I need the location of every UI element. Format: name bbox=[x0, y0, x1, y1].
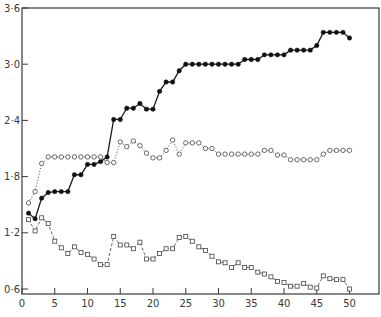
data-point-open-square bbox=[72, 245, 76, 249]
data-point-open-square bbox=[112, 235, 116, 239]
y-tick-label: 0·6 bbox=[4, 284, 20, 295]
series-filled-circle bbox=[26, 30, 351, 221]
data-point-open-circle bbox=[282, 153, 286, 157]
data-point-filled-circle bbox=[328, 30, 332, 34]
data-point-open-square bbox=[99, 263, 103, 267]
data-point-open-square bbox=[33, 229, 37, 233]
line-chart: 0·61·21·82·43·03·6 05101520253035404550 bbox=[0, 0, 381, 317]
data-point-filled-circle bbox=[151, 107, 155, 111]
data-point-open-square bbox=[302, 281, 306, 285]
data-point-filled-circle bbox=[39, 196, 43, 200]
data-point-open-square bbox=[184, 235, 188, 239]
data-point-open-circle bbox=[216, 152, 220, 156]
data-point-open-square bbox=[79, 250, 83, 254]
data-point-filled-circle bbox=[177, 69, 181, 73]
data-point-open-circle bbox=[203, 146, 207, 150]
data-point-open-square bbox=[27, 218, 31, 222]
data-point-open-circle bbox=[347, 148, 351, 152]
data-point-open-square bbox=[243, 265, 247, 269]
series-line bbox=[29, 32, 350, 218]
data-point-open-circle bbox=[236, 152, 240, 156]
y-tick-label: 3·6 bbox=[4, 3, 20, 14]
data-point-open-circle bbox=[164, 148, 168, 152]
data-point-open-circle bbox=[157, 156, 161, 160]
y-tick-label: 2·4 bbox=[4, 115, 20, 126]
data-point-open-square bbox=[40, 216, 44, 220]
data-point-open-square bbox=[348, 287, 352, 291]
data-point-open-circle bbox=[112, 160, 116, 164]
data-point-open-circle bbox=[66, 155, 70, 159]
data-point-filled-circle bbox=[66, 189, 70, 193]
data-point-open-square bbox=[334, 278, 338, 282]
x-tick-label: 35 bbox=[245, 298, 258, 309]
data-point-filled-circle bbox=[112, 117, 116, 121]
data-point-open-square bbox=[151, 257, 155, 261]
x-tick-label: 45 bbox=[310, 298, 323, 309]
x-tick-label: 5 bbox=[52, 298, 58, 309]
data-point-filled-circle bbox=[288, 48, 292, 52]
data-point-open-square bbox=[282, 280, 286, 284]
data-point-open-square bbox=[66, 251, 70, 255]
data-point-open-square bbox=[328, 277, 332, 281]
data-point-filled-circle bbox=[197, 62, 201, 66]
data-point-filled-circle bbox=[321, 30, 325, 34]
data-point-open-circle bbox=[249, 152, 253, 156]
data-point-filled-circle bbox=[295, 48, 299, 52]
data-point-open-square bbox=[321, 274, 325, 278]
data-point-open-square bbox=[217, 260, 221, 264]
data-point-open-circle bbox=[308, 158, 312, 162]
data-point-open-circle bbox=[256, 152, 260, 156]
data-point-open-square bbox=[158, 251, 162, 255]
data-point-filled-circle bbox=[85, 162, 89, 166]
data-point-open-circle bbox=[275, 153, 279, 157]
data-point-open-square bbox=[171, 247, 175, 251]
y-tick-label: 1·2 bbox=[4, 227, 20, 238]
data-point-filled-circle bbox=[79, 173, 83, 177]
data-point-open-circle bbox=[315, 158, 319, 162]
x-tick-label: 15 bbox=[114, 298, 127, 309]
data-point-open-circle bbox=[321, 152, 325, 156]
data-point-filled-circle bbox=[53, 189, 57, 193]
data-point-open-square bbox=[203, 249, 207, 253]
data-point-open-square bbox=[92, 257, 96, 261]
data-point-open-circle bbox=[177, 152, 181, 156]
data-point-filled-circle bbox=[33, 217, 37, 221]
data-point-filled-circle bbox=[347, 36, 351, 40]
data-point-open-square bbox=[210, 254, 214, 258]
data-point-open-circle bbox=[105, 160, 109, 164]
data-point-filled-circle bbox=[315, 43, 319, 47]
data-point-filled-circle bbox=[170, 80, 174, 84]
data-point-open-square bbox=[223, 261, 227, 265]
series-layer bbox=[26, 30, 351, 291]
x-tick-label: 50 bbox=[343, 298, 356, 309]
data-point-open-circle bbox=[190, 141, 194, 145]
data-point-filled-circle bbox=[190, 62, 194, 66]
data-point-open-square bbox=[197, 245, 201, 249]
x-tick-label: 20 bbox=[147, 298, 160, 309]
data-point-open-square bbox=[59, 246, 63, 250]
data-point-open-circle bbox=[53, 155, 57, 159]
data-point-open-circle bbox=[39, 161, 43, 165]
data-point-open-square bbox=[308, 285, 312, 289]
data-point-open-circle bbox=[288, 158, 292, 162]
x-tick-label: 40 bbox=[278, 298, 291, 309]
series-open-circle bbox=[26, 138, 351, 205]
data-point-filled-circle bbox=[282, 53, 286, 57]
data-point-filled-circle bbox=[243, 57, 247, 61]
data-point-open-circle bbox=[138, 143, 142, 147]
data-point-open-square bbox=[315, 286, 319, 290]
data-point-open-circle bbox=[125, 144, 129, 148]
data-point-open-circle bbox=[72, 155, 76, 159]
data-point-filled-circle bbox=[131, 106, 135, 110]
data-point-filled-circle bbox=[98, 159, 102, 163]
data-point-filled-circle bbox=[184, 62, 188, 66]
series-line bbox=[29, 140, 350, 203]
y-axis: 0·61·21·82·43·03·6 bbox=[4, 3, 28, 295]
data-point-filled-circle bbox=[59, 189, 63, 193]
data-point-open-square bbox=[269, 275, 273, 279]
data-point-open-square bbox=[190, 239, 194, 243]
series-line bbox=[29, 218, 350, 289]
data-point-open-square bbox=[275, 280, 279, 284]
data-point-filled-circle bbox=[105, 155, 109, 159]
data-point-filled-circle bbox=[210, 62, 214, 66]
